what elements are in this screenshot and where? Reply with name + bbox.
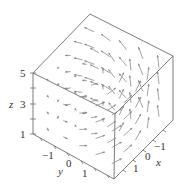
arrow-head-icon	[85, 145, 87, 147]
axis-labels: 5 3 1 z −1 0 1 y −1 0 1 x	[8, 67, 166, 179]
arrow-head-icon	[129, 92, 131, 94]
y-tick-0: 0	[66, 157, 72, 169]
z-tick-3: 3	[20, 98, 26, 110]
y-tick-neg1: −1	[42, 149, 54, 161]
arrow-head-icon	[84, 77, 86, 79]
vector-arrows	[46, 27, 159, 163]
vector-field-plot: 5 3 1 z −1 0 1 y −1 0 1 x	[0, 0, 181, 189]
arrow-head-icon	[65, 54, 67, 56]
z-axis-label: z	[8, 98, 14, 110]
arrow-head-icon	[85, 128, 87, 130]
y-tick-1: 1	[82, 167, 88, 179]
z-tick-5: 5	[20, 67, 26, 79]
cube-frame	[33, 14, 173, 179]
arrow-head-icon	[65, 71, 67, 73]
arrow-head-icon	[84, 60, 86, 62]
arrow-head-icon	[82, 79, 84, 81]
x-tick-neg1: −1	[154, 140, 166, 152]
arrow-head-icon	[157, 55, 159, 57]
x-tick-0: 0	[145, 150, 151, 162]
arrow-head-icon	[129, 59, 131, 61]
z-tick-1: 1	[20, 128, 26, 140]
arrow-head-icon	[74, 108, 76, 110]
arrow-head-icon	[103, 135, 105, 137]
x-tick-1: 1	[133, 162, 139, 174]
arrow-head-icon	[129, 76, 131, 78]
arrow-head-icon	[129, 109, 131, 111]
y-axis-label: y	[57, 165, 63, 177]
x-axis-label: x	[155, 156, 161, 168]
arrow-head-icon	[57, 66, 59, 68]
